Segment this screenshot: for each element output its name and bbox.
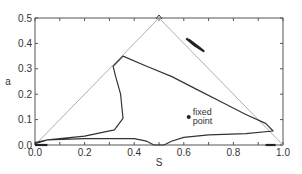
y-axis-label: a — [5, 76, 11, 87]
y-tick-label: 0.2 — [18, 89, 32, 100]
y-tick-labels: 0.00.10.20.30.40.5 — [18, 13, 32, 151]
fixed-point-annotation: fixed point — [187, 107, 213, 126]
x-tick-label: 0.4 — [127, 147, 141, 158]
axes-frame — [35, 18, 283, 145]
y-tick-label: 0.3 — [18, 63, 32, 74]
x-tick-label: 1.0 — [276, 147, 290, 158]
series-main-trajectory — [35, 56, 273, 145]
series-triangle-boundary — [35, 18, 283, 145]
y-tick-label: 0.0 — [18, 140, 32, 151]
x-tick-label: 0.8 — [226, 147, 240, 158]
x-tick-label: 0.2 — [78, 147, 92, 158]
y-tick-label: 0.4 — [18, 38, 32, 49]
series-layer — [35, 18, 283, 145]
x-axis-label: S — [156, 157, 163, 168]
phase-plot: 0.00.20.40.60.81.0 0.00.10.20.30.40.5 S … — [0, 0, 302, 174]
fixed-point-marker — [187, 115, 191, 119]
x-tick-label: 0.6 — [177, 147, 191, 158]
axis-ticks — [35, 18, 283, 145]
y-tick-label: 0.5 — [18, 13, 32, 24]
y-tick-label: 0.1 — [18, 114, 32, 125]
fixed-point-label-line2: point — [193, 116, 213, 126]
